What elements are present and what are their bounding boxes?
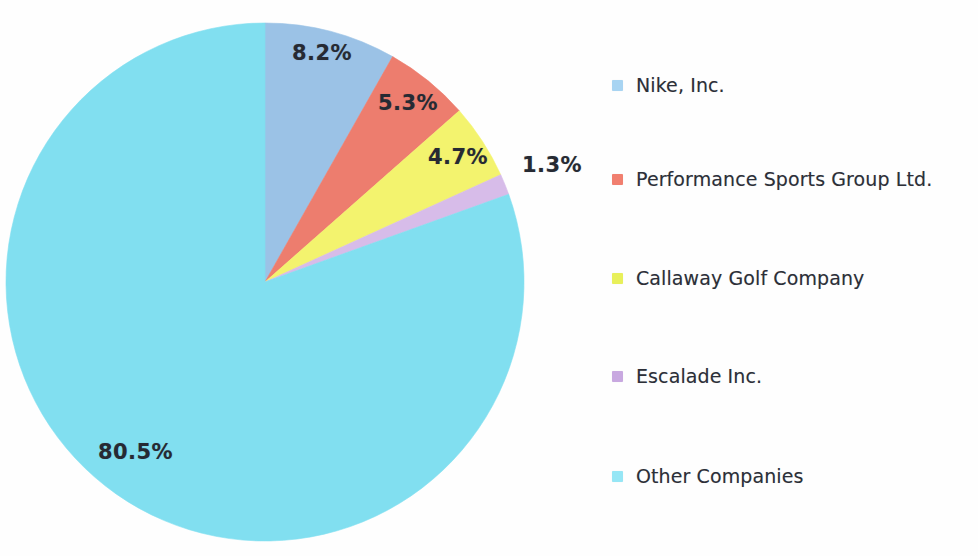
- legend-label-other-companies: Other Companies: [636, 465, 804, 487]
- legend-item-nike[interactable]: Nike, Inc.: [612, 72, 725, 98]
- data-label-other-companies: 80.5%: [98, 440, 173, 464]
- data-label-callaway: 4.7%: [428, 145, 488, 169]
- legend-swatch-icon-escalade: [612, 371, 623, 382]
- legend-item-escalade[interactable]: Escalade Inc.: [612, 363, 762, 389]
- legend-label-performance-sports: Performance Sports Group Ltd.: [636, 168, 932, 190]
- legend: Nike, Inc. Performance Sports Group Ltd.…: [612, 0, 978, 556]
- legend-label-escalade: Escalade Inc.: [636, 365, 762, 387]
- pie-plot-area: 8.2% 5.3% 4.7% 1.3% 80.5%: [0, 0, 600, 556]
- data-label-performance-sports: 5.3%: [378, 91, 438, 115]
- legend-swatch-icon-callaway: [612, 273, 623, 284]
- pie-chart: 8.2% 5.3% 4.7% 1.3% 80.5% Nike, Inc. Per…: [0, 0, 978, 556]
- legend-swatch-icon-nike: [612, 80, 623, 91]
- legend-item-callaway[interactable]: Callaway Golf Company: [612, 265, 864, 291]
- pie-slice-group: [6, 23, 524, 541]
- data-label-nike: 8.2%: [292, 41, 352, 65]
- legend-item-other-companies[interactable]: Other Companies: [612, 463, 804, 489]
- pie-graphic: [0, 0, 600, 556]
- legend-swatch-icon-other-companies: [612, 471, 623, 482]
- legend-label-callaway: Callaway Golf Company: [636, 267, 864, 289]
- legend-item-performance-sports[interactable]: Performance Sports Group Ltd.: [612, 166, 932, 192]
- legend-label-nike: Nike, Inc.: [636, 74, 725, 96]
- data-label-escalade: 1.3%: [522, 153, 582, 177]
- legend-swatch-icon-performance-sports: [612, 174, 623, 185]
